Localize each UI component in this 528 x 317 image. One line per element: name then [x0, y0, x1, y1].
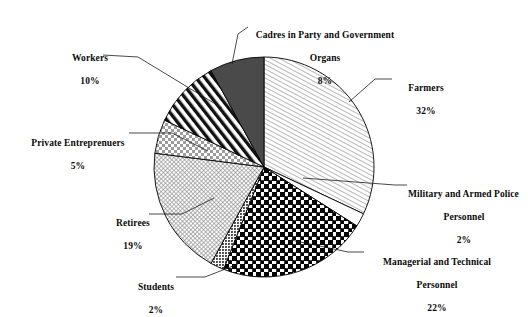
slice-label-private-entreprenuers: Private Entreprenuers 5% [2, 126, 154, 184]
slice-label-cadres-pct: 8% [246, 76, 404, 88]
slice-label-retirees-pct: 19% [96, 241, 170, 253]
slice-label-managerial-pct: 22% [362, 303, 512, 315]
slice-label-military-name-line1: Military and Armed Police [408, 189, 528, 201]
slice-label-workers-name: Workers [28, 53, 152, 65]
slice-label-retirees: Retirees 19% [96, 206, 170, 264]
slice-label-managerial-name-line2: Personnel [362, 280, 512, 292]
slice-label-cadres-name-line2: Organs [246, 53, 404, 65]
slice-label-farmers-name: Farmers [386, 83, 466, 95]
slice-label-students-name: Students [114, 282, 198, 294]
slice-label-managerial-and-technical-personnel: Managerial and Technical Personnel 22% [362, 245, 512, 317]
slice-label-private-entreprenuers-name: Private Entreprenuers [2, 138, 154, 150]
slice-label-students-pct: 2% [114, 305, 198, 317]
slice-label-private-entreprenuers-pct: 5% [2, 161, 154, 173]
slice-label-students: Students 2% [114, 270, 198, 317]
slice-label-managerial-name-line1: Managerial and Technical [362, 257, 512, 269]
slice-label-cadres-in-party-and-government-organs: Cadres in Party and Government Organs 8% [246, 18, 404, 99]
slice-label-cadres-name-line1: Cadres in Party and Government [246, 30, 404, 42]
slice-label-retirees-name: Retirees [96, 218, 170, 230]
slice-label-farmers-pct: 32% [386, 106, 466, 118]
slice-label-workers-pct: 10% [28, 76, 152, 88]
slice-label-farmers: Farmers 32% [386, 71, 466, 129]
slice-label-workers: Workers 10% [28, 41, 152, 99]
slice-label-military-name-line2: Personnel [408, 212, 520, 224]
